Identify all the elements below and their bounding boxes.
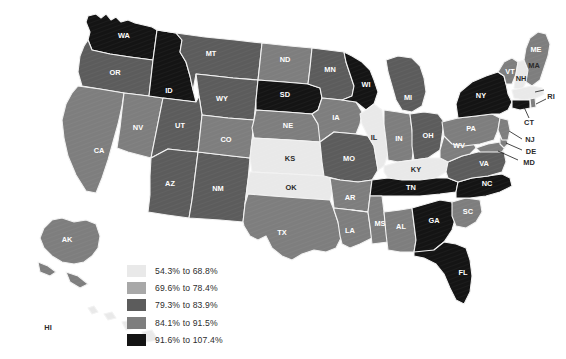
state-RI[interactable]	[530, 98, 536, 108]
legend-label-5: 91.6% to 107.4%	[155, 335, 223, 345]
state-NM[interactable]	[189, 152, 250, 222]
map-legend: 54.3% to 68.8% 69.6% to 78.4% 79.3% to 8…	[127, 262, 277, 349]
legend-swatch-5	[127, 334, 146, 346]
legend-label-2: 69.6% to 78.4%	[155, 283, 218, 293]
state-MI[interactable]	[386, 56, 426, 112]
state-AL[interactable]	[384, 208, 416, 252]
legend-row: 69.6% to 78.4%	[127, 279, 277, 296]
legend-row: 79.3% to 83.9%	[127, 297, 277, 314]
state-NY[interactable]	[456, 72, 512, 118]
state-KS[interactable]	[250, 138, 324, 176]
label-CT: CT	[524, 118, 534, 127]
label-HI: HI	[44, 323, 51, 332]
label-NJ: NJ	[525, 135, 534, 144]
label-RI: RI	[547, 92, 554, 101]
label-DE: DE	[526, 147, 536, 156]
state-TN[interactable]	[370, 178, 458, 196]
state-AR[interactable]	[330, 178, 372, 212]
state-FL[interactable]	[414, 242, 472, 304]
state-CO[interactable]	[198, 115, 254, 158]
legend-label-1: 54.3% to 68.8%	[155, 266, 218, 276]
state-ME[interactable]	[524, 32, 550, 86]
state-NE[interactable]	[252, 110, 322, 142]
states-layer	[38, 14, 550, 342]
state-PA[interactable]	[442, 114, 500, 146]
legend-swatch-3	[127, 299, 146, 311]
state-AK[interactable]	[38, 218, 100, 288]
us-map-svg: WA OR CA NV ID MT WY UT AZ NM CO ND SD N…	[0, 0, 566, 359]
state-NJ[interactable]	[498, 118, 510, 140]
state-CA[interactable]	[62, 86, 124, 193]
choropleth-map: WA OR CA NV ID MT WY UT AZ NM CO ND SD N…	[0, 0, 566, 359]
legend-swatch-1	[127, 265, 146, 277]
state-WY[interactable]	[196, 74, 258, 120]
state-LA[interactable]	[334, 208, 372, 248]
legend-row: 84.1% to 91.5%	[127, 314, 277, 331]
legend-swatch-2	[127, 282, 146, 294]
state-OH[interactable]	[410, 112, 444, 160]
legend-row: 91.6% to 107.4%	[127, 332, 277, 349]
state-IN[interactable]	[384, 110, 414, 162]
state-CT[interactable]	[512, 100, 530, 110]
leader-line-ri	[536, 99, 546, 104]
legend-label-3: 79.3% to 83.9%	[155, 300, 218, 310]
leader-line-nj	[509, 131, 522, 139]
state-TX[interactable]	[243, 194, 342, 260]
leader-line-de	[506, 143, 522, 150]
state-ND[interactable]	[258, 43, 312, 84]
state-MO[interactable]	[320, 132, 378, 182]
legend-label-4: 84.1% to 91.5%	[155, 318, 218, 328]
legend-row: 54.3% to 68.8%	[127, 262, 277, 279]
state-SC[interactable]	[452, 198, 482, 228]
label-MD: MD	[523, 158, 535, 167]
legend-swatch-4	[127, 317, 146, 329]
